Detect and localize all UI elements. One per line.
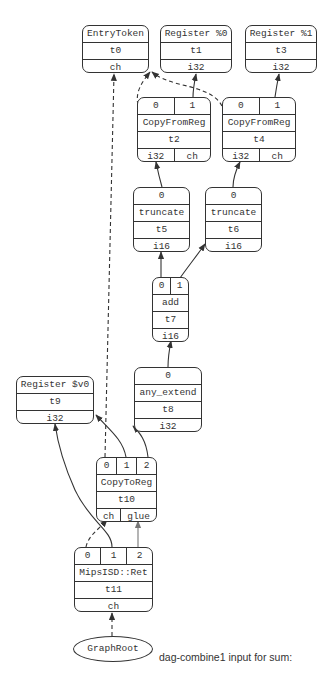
node-t1[interactable]: Register %0 t1 i32: [160, 25, 232, 73]
node-type: ch: [174, 149, 211, 162]
node-title: MipsISD::Ret: [75, 565, 152, 581]
node-title: GraphRoot: [87, 643, 138, 654]
node-title: truncate: [134, 205, 189, 221]
node-title: Register %1: [246, 26, 316, 42]
port-2: 2: [136, 458, 156, 474]
edge-t6-t4: [233, 162, 240, 187]
node-title: CopyFromReg: [138, 115, 210, 131]
node-id: t1: [161, 43, 231, 59]
node-graph-root[interactable]: GraphRoot: [73, 636, 153, 662]
node-t10[interactable]: 0 1 2 CopyToReg t10 ch glue: [96, 457, 157, 522]
node-title: any_extend: [135, 385, 201, 401]
edge-t8-t7: [168, 341, 171, 367]
edge-t10-t0: [105, 74, 114, 457]
node-type: ch: [75, 599, 152, 612]
node-t11[interactable]: 0 1 2 MipsISD::Ret t11 ch: [74, 547, 153, 612]
node-id: t9: [17, 394, 93, 410]
port-1: 1: [259, 98, 296, 114]
port-1: 1: [100, 548, 126, 564]
edge-t10-t9: [96, 415, 126, 457]
port-1: 1: [116, 458, 136, 474]
edge-t11-t10ch: [86, 520, 107, 547]
port-0: 0: [153, 278, 170, 294]
node-t7[interactable]: 0 1 add t7 i16: [152, 277, 189, 342]
node-id: t7: [153, 312, 188, 328]
node-type: glue: [120, 509, 156, 522]
node-type: i16: [134, 239, 189, 252]
node-t8[interactable]: 0 any_extend t8 i32: [134, 367, 202, 432]
node-type: ch: [259, 149, 296, 162]
node-title: Register %0: [161, 26, 231, 42]
node-id: t5: [134, 222, 189, 238]
node-t3[interactable]: Register %1 t3 i32: [245, 25, 317, 73]
port-0: 0: [135, 368, 201, 384]
node-type: i32: [223, 149, 259, 162]
node-id: t8: [135, 402, 201, 418]
node-title: EntryToken: [83, 26, 148, 42]
node-title: CopyToReg: [97, 475, 156, 491]
node-id: t10: [97, 492, 156, 508]
figure-caption: dag-combine1 input for sum:: [159, 651, 292, 663]
node-title: Register $v0: [17, 377, 93, 393]
node-type: i16: [153, 329, 188, 342]
node-id: t2: [138, 132, 210, 148]
node-t4[interactable]: 0 1 CopyFromReg t4 i32 ch: [222, 97, 296, 162]
node-t9[interactable]: Register $v0 t9 i32: [16, 376, 94, 424]
node-id: t0: [83, 43, 148, 59]
node-type: ch: [97, 509, 120, 522]
port-2: 2: [126, 548, 152, 564]
port-0: 0: [138, 98, 174, 114]
node-id: t4: [223, 132, 295, 148]
node-id: t6: [206, 222, 261, 238]
node-type: i32: [246, 60, 316, 73]
node-type: i32: [138, 149, 174, 162]
port-0: 0: [223, 98, 259, 114]
node-title: CopyFromReg: [223, 115, 295, 131]
node-type: i32: [135, 419, 201, 432]
node-type: ch: [83, 60, 148, 73]
edge-t2-t1: [193, 74, 196, 97]
node-type: i32: [17, 411, 93, 424]
port-0: 0: [97, 458, 116, 474]
node-title: add: [153, 295, 188, 311]
port-1: 1: [170, 278, 188, 294]
node-type: i32: [161, 60, 231, 73]
port-0: 0: [134, 188, 189, 204]
edge-t5-t2: [156, 162, 162, 187]
node-t0[interactable]: EntryToken t0 ch: [82, 25, 149, 73]
node-id: t11: [75, 582, 152, 598]
port-1: 1: [174, 98, 211, 114]
node-type: i16: [206, 239, 261, 252]
edge-t4-t3: [275, 74, 279, 97]
node-id: t3: [246, 43, 316, 59]
node-t5[interactable]: 0 truncate t5 i16: [133, 187, 190, 252]
node-t2[interactable]: 0 1 CopyFromReg t2 i32 ch: [137, 97, 211, 162]
node-title: truncate: [206, 205, 261, 221]
port-0: 0: [206, 188, 261, 204]
node-t6[interactable]: 0 truncate t6 i16: [205, 187, 262, 252]
port-0: 0: [75, 548, 100, 564]
